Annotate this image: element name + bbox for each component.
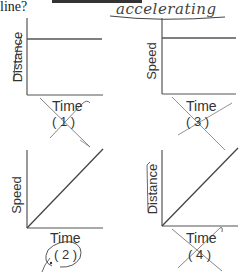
graph-4-x-label: Time: [186, 230, 217, 246]
graph-2-x-label: Time: [50, 230, 81, 246]
graph-3-x-label: Time: [186, 98, 217, 114]
graph-4-data-line: [162, 148, 238, 226]
graph-1-number: ( 1 ): [52, 114, 75, 129]
graph-1-y-label: Distance: [11, 28, 25, 86]
answer-underline: [110, 16, 225, 19]
graph-2-number: ( 2 ): [54, 247, 77, 262]
graph-3-y-label: Speed: [145, 36, 159, 86]
graph-4-number: ( 4 ): [188, 247, 211, 262]
graph-2-y-label: Speed: [10, 170, 24, 220]
graph-4-y-label: Distance: [146, 160, 160, 218]
graph-2-data-line: [27, 149, 103, 228]
graph-3: [162, 18, 236, 150]
graph-3-number: ( 3 ): [186, 114, 209, 129]
graph-1-x-label: Time: [52, 98, 83, 114]
